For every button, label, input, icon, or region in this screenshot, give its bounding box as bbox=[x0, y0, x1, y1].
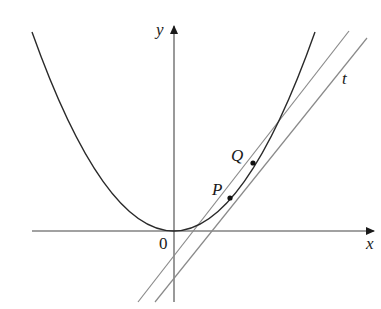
secant-line bbox=[138, 31, 349, 302]
point-q-label: Q bbox=[231, 146, 243, 165]
y-axis-label: y bbox=[154, 20, 164, 39]
tangent-secant-diagram: y x 0 P Q t bbox=[0, 0, 381, 309]
origin-label: 0 bbox=[159, 234, 168, 253]
point-p bbox=[227, 195, 232, 200]
tangent-label: t bbox=[342, 69, 348, 88]
point-p-label: P bbox=[211, 180, 222, 199]
point-q bbox=[250, 160, 255, 165]
tangent-line bbox=[155, 38, 367, 302]
x-axis-label: x bbox=[365, 234, 374, 253]
